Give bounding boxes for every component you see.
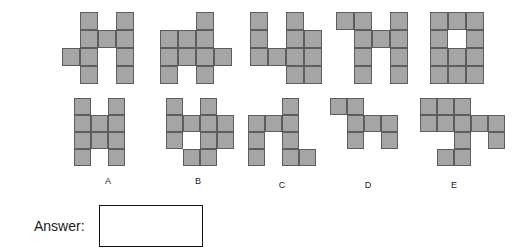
- shape-cell-filled: [437, 115, 454, 132]
- shape-cell-filled: [178, 48, 196, 66]
- shape-cell-filled: [116, 30, 134, 48]
- shape-cell-empty: [471, 98, 488, 115]
- shape-cell-filled: [454, 98, 471, 115]
- shape-cell-filled: [448, 48, 466, 66]
- shape-cell-filled: [282, 98, 299, 115]
- shape-cell-filled: [116, 12, 134, 30]
- shape-cell-filled: [268, 48, 286, 66]
- shape-cell-filled: [116, 48, 134, 66]
- shape-cell-filled: [282, 149, 299, 166]
- shape-cell-filled: [286, 12, 304, 30]
- question-shape-1: [62, 12, 134, 84]
- shape-cell-empty: [214, 12, 232, 30]
- shape-cell-empty: [265, 149, 282, 166]
- shape-cell-empty: [448, 30, 466, 48]
- shape-cell-filled: [108, 98, 125, 115]
- shape-cell-filled: [466, 12, 484, 30]
- shape-cell-empty: [299, 115, 316, 132]
- shape-cell-filled: [166, 115, 183, 132]
- shape-cell-filled: [454, 132, 471, 149]
- shape-cell-filled: [183, 149, 200, 166]
- shape-cell-filled: [250, 48, 268, 66]
- shape-cell-empty: [62, 12, 80, 30]
- shape-cell-filled: [166, 132, 183, 149]
- shape-cell-filled: [160, 30, 178, 48]
- option-shape-d[interactable]: [330, 98, 398, 149]
- shape-cell-filled: [74, 115, 91, 132]
- shape-cell-filled: [282, 115, 299, 132]
- shape-cell-filled: [437, 149, 454, 166]
- shape-cell-filled: [200, 149, 217, 166]
- shape-cell-empty: [98, 48, 116, 66]
- question-shape-3: [250, 12, 322, 84]
- shape-cell-empty: [471, 149, 488, 166]
- shape-cell-filled: [390, 66, 408, 84]
- shape-cell-filled: [282, 132, 299, 149]
- shape-cell-filled: [286, 48, 304, 66]
- shape-cell-filled: [381, 115, 398, 132]
- shape-cell-filled: [98, 30, 116, 48]
- shape-cell-empty: [268, 66, 286, 84]
- shape-cell-filled: [466, 30, 484, 48]
- shape-cell-empty: [214, 30, 232, 48]
- shape-cell-filled: [265, 115, 282, 132]
- shape-cell-filled: [74, 98, 91, 115]
- shape-cell-empty: [420, 132, 437, 149]
- shape-cell-filled: [354, 48, 372, 66]
- shape-cell-filled: [217, 132, 234, 149]
- shape-cell-filled: [372, 30, 390, 48]
- shape-cell-filled: [248, 149, 265, 166]
- option-shape-e[interactable]: [420, 98, 505, 166]
- shape-cell-empty: [364, 132, 381, 149]
- shape-cell-filled: [108, 149, 125, 166]
- shape-cell-filled: [448, 66, 466, 84]
- shape-cell-filled: [196, 30, 214, 48]
- shape-cell-filled: [200, 98, 217, 115]
- shape-cell-filled: [248, 132, 265, 149]
- question-shape-4: [336, 12, 408, 84]
- shape-cell-filled: [74, 149, 91, 166]
- shape-cell-empty: [62, 66, 80, 84]
- shape-cell-empty: [304, 12, 322, 30]
- option-shape-b[interactable]: [166, 98, 234, 166]
- shape-cell-empty: [299, 98, 316, 115]
- option-label-d: D: [358, 180, 378, 190]
- puzzle-figure: ABCDE Answer:: [0, 0, 522, 252]
- option-label-e: E: [444, 180, 464, 190]
- shape-cell-empty: [166, 149, 183, 166]
- option-shape-c[interactable]: [248, 98, 316, 166]
- shape-cell-filled: [454, 149, 471, 166]
- shape-cell-empty: [98, 66, 116, 84]
- option-shape-a[interactable]: [74, 98, 125, 166]
- shape-cell-empty: [248, 98, 265, 115]
- shape-cell-filled: [196, 12, 214, 30]
- shape-cell-filled: [250, 12, 268, 30]
- shape-cell-filled: [420, 115, 437, 132]
- shape-cell-filled: [200, 115, 217, 132]
- shape-cell-empty: [98, 12, 116, 30]
- shape-cell-filled: [286, 66, 304, 84]
- shape-cell-filled: [390, 48, 408, 66]
- shape-cell-filled: [91, 115, 108, 132]
- shape-cell-empty: [91, 149, 108, 166]
- answer-input-box[interactable]: [99, 205, 203, 247]
- shape-cell-filled: [80, 66, 98, 84]
- question-shape-2: [160, 12, 232, 84]
- shape-cell-filled: [454, 115, 471, 132]
- option-label-b: B: [188, 176, 208, 186]
- shape-cell-empty: [178, 66, 196, 84]
- shape-cell-empty: [372, 12, 390, 30]
- shape-cell-filled: [430, 66, 448, 84]
- shape-cell-empty: [299, 132, 316, 149]
- shape-cell-filled: [116, 66, 134, 84]
- shape-cell-empty: [214, 66, 232, 84]
- shape-cell-empty: [91, 98, 108, 115]
- shape-cell-filled: [437, 98, 454, 115]
- shape-cell-empty: [268, 30, 286, 48]
- shape-cell-empty: [183, 98, 200, 115]
- shape-cell-empty: [217, 98, 234, 115]
- shape-cell-empty: [265, 132, 282, 149]
- shape-cell-filled: [80, 30, 98, 48]
- shape-cell-filled: [420, 98, 437, 115]
- shape-cell-filled: [304, 66, 322, 84]
